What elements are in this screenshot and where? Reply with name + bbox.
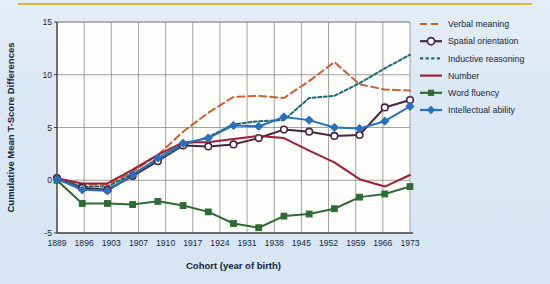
series-markers-spatial-orientation — [331, 133, 338, 140]
x-axis-tick-label: 1966 — [373, 238, 392, 248]
legend-label: Intellectual ability — [448, 105, 516, 115]
y-axis-title: Cumulative Mean T-Score Differences — [5, 43, 16, 213]
series-markers-word-fluency — [79, 201, 85, 207]
series-markers-spatial-orientation — [255, 135, 262, 142]
series-markers-word-fluency — [205, 209, 211, 215]
series-markers-spatial-orientation — [381, 104, 388, 111]
x-axis-tick-label: 1903 — [102, 238, 121, 248]
y-axis-tick-label: 15 — [42, 17, 52, 27]
series-markers-word-fluency — [331, 206, 337, 212]
legend-item[interactable]: Inductive reasoning — [420, 54, 524, 64]
series-markers-word-fluency — [155, 198, 161, 204]
legend-item[interactable]: Word fluency — [420, 88, 500, 98]
legend-item[interactable]: Verbal meaning — [420, 19, 509, 29]
x-axis-tick-label: 1945 — [292, 238, 311, 248]
series-markers-word-fluency — [105, 201, 111, 207]
figure-container: 151050-518891896190319071910191719241931… — [0, 0, 550, 284]
legend-label: Inductive reasoning — [448, 54, 524, 64]
legend-label: Verbal meaning — [448, 19, 509, 29]
x-axis-tick-label: 1896 — [75, 238, 94, 248]
x-axis-tick-label: 1907 — [129, 238, 148, 248]
series-markers-word-fluency — [306, 211, 312, 217]
x-axis-tick-label: 1917 — [183, 238, 202, 248]
legend-marker-diamond-icon — [427, 106, 436, 115]
x-axis-tick-label: 1938 — [265, 238, 284, 248]
series-markers-spatial-orientation — [306, 128, 313, 135]
x-axis-title: Cohort (year of birth) — [186, 260, 281, 271]
x-axis-tick-label: 1952 — [319, 238, 338, 248]
x-axis-tick-label: 1959 — [346, 238, 365, 248]
y-axis-tick-label: 5 — [47, 123, 52, 133]
legend-label: Word fluency — [448, 88, 500, 98]
series-markers-word-fluency — [256, 225, 262, 231]
y-axis-tick-label: 10 — [42, 70, 52, 80]
x-axis-tick-label: 1910 — [156, 238, 175, 248]
legend-item[interactable]: Intellectual ability — [420, 105, 516, 115]
legend-marker-circle-icon — [427, 38, 434, 45]
legend-label: Number — [448, 71, 479, 81]
y-axis-tick-label: 0 — [47, 175, 52, 185]
legend-item[interactable]: Number — [420, 71, 479, 81]
x-axis-tick-label: 1924 — [210, 238, 229, 248]
cohort-tscore-line-chart: 151050-518891896190319071910191719241931… — [0, 0, 550, 284]
series-markers-word-fluency — [357, 194, 363, 200]
series-markers-word-fluency — [180, 203, 186, 209]
series-markers-spatial-orientation — [281, 126, 288, 133]
series-markers-word-fluency — [382, 191, 388, 197]
x-axis-tick-label: 1889 — [47, 238, 66, 248]
x-axis-tick-label: 1931 — [238, 238, 257, 248]
legend-item[interactable]: Spatial orientation — [420, 36, 519, 46]
series-markers-word-fluency — [407, 184, 413, 190]
legend-label: Spatial orientation — [448, 36, 519, 46]
series-markers-word-fluency — [281, 213, 287, 219]
series-markers-word-fluency — [130, 202, 136, 208]
legend-marker-square-icon — [428, 90, 434, 96]
series-markers-spatial-orientation — [205, 143, 212, 150]
series-markers-word-fluency — [231, 221, 237, 227]
x-axis-tick-label: 1973 — [400, 238, 419, 248]
y-axis-tick-label: -5 — [44, 228, 52, 238]
series-markers-spatial-orientation — [230, 141, 237, 148]
